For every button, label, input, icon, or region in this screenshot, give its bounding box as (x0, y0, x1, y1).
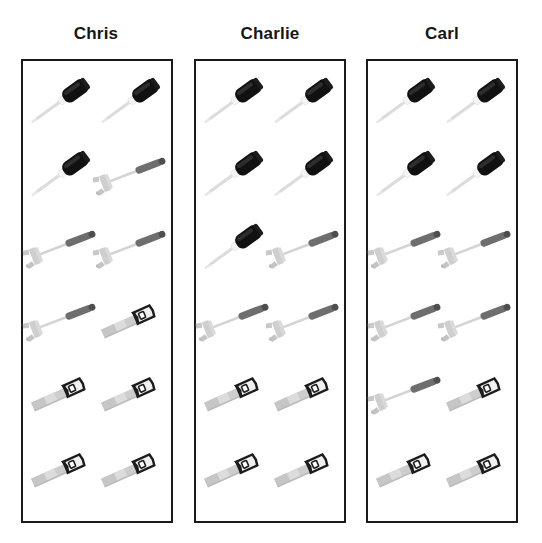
saw-icon (442, 357, 516, 429)
tool-slot-r5-c1 (27, 357, 101, 429)
tool-slot-r4-c2 (97, 284, 171, 356)
tool-slot-r4-c1 (200, 284, 274, 356)
saw-icon (97, 284, 171, 356)
tool-slot-r2-c2 (270, 138, 344, 210)
hammer-icon (372, 211, 446, 283)
saw-icon (27, 357, 101, 429)
tool-comparison-board: Chris (0, 0, 542, 543)
screwdriver-icon (270, 65, 344, 137)
screwdriver-icon (270, 138, 344, 210)
hammer-icon (97, 211, 171, 283)
hammer-icon (372, 284, 446, 356)
tool-column-chris: Chris (12, 22, 182, 532)
hammer-icon (27, 211, 101, 283)
screwdriver-icon (200, 138, 274, 210)
tool-slot-r4-c1 (27, 284, 101, 356)
hammer-icon (97, 138, 171, 210)
tool-slot-r2-c1 (372, 138, 446, 210)
tool-slot-r3-c2 (442, 211, 516, 283)
tool-bin-carl (366, 59, 518, 523)
screwdriver-icon (442, 65, 516, 137)
tool-slot-r2-c2 (442, 138, 516, 210)
screwdriver-icon (372, 138, 446, 210)
tool-slot-r1-c1 (200, 65, 274, 137)
column-title-carl: Carl (357, 22, 527, 46)
screwdriver-icon (372, 65, 446, 137)
tool-slot-r4-c1 (372, 284, 446, 356)
saw-icon (442, 433, 516, 505)
hammer-icon (200, 284, 274, 356)
hammer-icon (270, 211, 344, 283)
tool-slot-r3-c2 (270, 211, 344, 283)
tool-slot-r3-c1 (27, 211, 101, 283)
tool-slot-r4-c2 (270, 284, 344, 356)
tool-slot-r5-c2 (97, 357, 171, 429)
screwdriver-icon (200, 211, 274, 283)
tool-slot-r3-c2 (97, 211, 171, 283)
tool-bin-charlie (194, 59, 346, 523)
tool-slot-r3-c1 (200, 211, 274, 283)
hammer-icon (372, 357, 446, 429)
saw-icon (200, 357, 274, 429)
tool-slot-r3-c1 (372, 211, 446, 283)
screwdriver-icon (200, 65, 274, 137)
saw-icon (97, 357, 171, 429)
tool-column-carl: Carl (357, 22, 527, 532)
hammer-icon (27, 284, 101, 356)
tool-slot-r2-c1 (27, 138, 101, 210)
column-title-charlie: Charlie (185, 22, 355, 46)
tool-slot-r2-c1 (200, 138, 274, 210)
tool-slot-r2-c2 (97, 138, 171, 210)
screwdriver-icon (27, 138, 101, 210)
saw-icon (97, 433, 171, 505)
hammer-icon (270, 284, 344, 356)
saw-icon (372, 433, 446, 505)
hammer-icon (442, 211, 516, 283)
tool-slot-r4-c2 (442, 284, 516, 356)
tool-slot-r5-c1 (372, 357, 446, 429)
saw-icon (27, 433, 101, 505)
screwdriver-icon (442, 138, 516, 210)
screwdriver-icon (27, 65, 101, 137)
tool-slot-r6-c1 (200, 433, 274, 505)
tool-slot-r1-c1 (27, 65, 101, 137)
screwdriver-icon (97, 65, 171, 137)
hammer-icon (442, 284, 516, 356)
tool-slot-r1-c2 (442, 65, 516, 137)
tool-slot-r6-c2 (442, 433, 516, 505)
tool-slot-r5-c2 (442, 357, 516, 429)
column-title-chris: Chris (12, 22, 182, 46)
tool-slot-r5-c2 (270, 357, 344, 429)
tool-slot-r1-c2 (270, 65, 344, 137)
tool-slot-r1-c2 (97, 65, 171, 137)
saw-icon (200, 433, 274, 505)
tool-slot-r5-c1 (200, 357, 274, 429)
tool-slot-r1-c1 (372, 65, 446, 137)
tool-slot-r6-c1 (27, 433, 101, 505)
tool-slot-r6-c2 (270, 433, 344, 505)
tool-column-charlie: Charlie (185, 22, 355, 532)
tool-bin-chris (21, 59, 173, 523)
tool-slot-r6-c2 (97, 433, 171, 505)
saw-icon (270, 357, 344, 429)
tool-slot-r6-c1 (372, 433, 446, 505)
saw-icon (270, 433, 344, 505)
